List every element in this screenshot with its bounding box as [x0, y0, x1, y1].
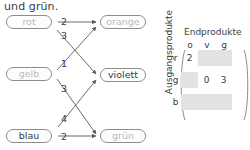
matrix-cell-b-o — [181, 94, 198, 110]
edge-weight-rot-orange: 2 — [61, 16, 67, 27]
edge-weight-blau-gruen: 2 — [61, 131, 67, 142]
diagram-page: und grün. 2 3 1 3 4 — [0, 0, 250, 150]
node-gruen[interactable]: grün — [100, 129, 146, 143]
edge-weight-gelb-gruen: 3 — [61, 83, 67, 94]
edge-weight-gelb-orange: 1 — [61, 58, 67, 69]
matrix-cell-r-o: 2 — [181, 50, 198, 66]
node-gelb[interactable]: gelb — [6, 67, 52, 81]
node-rot[interactable]: rot — [6, 15, 52, 29]
matrix-cell-b-g — [215, 94, 232, 110]
edge-weight-rot-violett: 3 — [61, 30, 67, 41]
node-blau[interactable]: blau — [6, 129, 52, 143]
matrix-cell-g-g: 3 — [215, 72, 232, 88]
matrix-title: Endprodukte — [184, 27, 242, 37]
matrix-cell-r-g — [215, 50, 232, 66]
matrix-cell-g-o — [181, 72, 198, 88]
matrix-cell-b-v — [198, 94, 215, 110]
matrix-cell-g-v: 0 — [198, 72, 215, 88]
edge-weight-blau-violett: 4 — [61, 113, 67, 124]
node-orange[interactable]: orange — [100, 15, 146, 29]
node-violett[interactable]: violett — [100, 68, 146, 82]
matrix-panel: Ausgangsprodukte Endprodukte o v g r g b… — [155, 0, 250, 150]
matrix-cell-r-v — [198, 50, 215, 66]
